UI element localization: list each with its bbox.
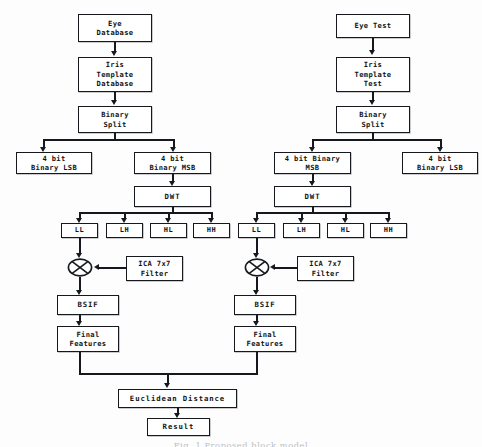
node-4bit-binary-msb-enroll: 4 bit Binary MSB <box>134 152 211 174</box>
arrowhead-merge-to-distance <box>164 383 170 388</box>
connector-split-right-test <box>440 139 442 147</box>
node-dwt-test: DWT <box>274 186 351 207</box>
node-eye-database: Eye Database <box>78 14 152 42</box>
node-subband-ll-test: LL <box>238 223 275 238</box>
arrowhead-ica-to-operator-test <box>270 264 275 270</box>
arrowhead-ica-to-operator-enroll <box>94 264 99 270</box>
connector-split-right-enroll <box>173 139 175 147</box>
connector-ll-to-operator-enroll <box>79 238 81 254</box>
arrowhead-template-to-split <box>111 100 117 105</box>
connector-dwt-bar-enroll <box>79 212 213 214</box>
node-4bit-binary-lsb-enroll: 4 bit Binary LSB <box>16 152 92 174</box>
arrowhead-eyedb-to-template <box>111 51 117 56</box>
connector-ica-to-operator-enroll <box>99 267 126 269</box>
node-iris-template-test: Iris Template Test <box>336 57 410 92</box>
node-binary-split-test: Binary Split <box>336 106 410 133</box>
node-result: Result <box>147 418 210 436</box>
connector-dwt-bar-test <box>256 212 390 214</box>
node-subband-hl-test: HL <box>327 223 364 238</box>
node-final-features-enroll: Final Features <box>57 326 119 352</box>
connector-features-down-enroll <box>79 352 81 374</box>
node-dwt-enroll: DWT <box>134 186 211 207</box>
connector-split-bar-enroll <box>43 139 174 141</box>
connector-msb-to-dwt-test <box>312 174 314 181</box>
connector-template-to-split-test <box>372 92 374 100</box>
flowchart-figure: Eye Database Iris Template Database Bina… <box>0 0 482 447</box>
node-bsif-test: BSIF <box>234 295 296 315</box>
connector-split-left-test <box>312 139 314 147</box>
figure-caption: Fig. 1 Proposed block model <box>0 440 482 447</box>
connector-msb-to-dwt-enroll <box>172 174 174 181</box>
node-final-features-test: Final Features <box>234 326 296 352</box>
connector-split-bar-test <box>312 139 442 141</box>
node-subband-hh-test: HH <box>370 223 407 238</box>
connector-ica-to-operator-test <box>275 267 297 269</box>
multiply-operator-enroll <box>67 258 93 277</box>
node-eye-test: Eye Test <box>336 14 410 38</box>
connector-eyedb-to-template <box>114 42 116 51</box>
arrowhead-template-to-split-test <box>369 100 375 105</box>
connector-split-left-enroll <box>43 139 45 147</box>
node-4bit-binary-lsb-test: 4 bit Binary LSB <box>402 152 478 174</box>
node-subband-ll-enroll: LL <box>61 223 98 238</box>
connector-template-to-split <box>114 92 116 100</box>
connector-operator-to-bsif-enroll <box>79 277 81 291</box>
connector-features-down-test <box>256 352 258 374</box>
connector-ll-to-operator-test <box>256 238 258 254</box>
node-subband-lh-test: LH <box>283 223 320 238</box>
node-subband-lh-enroll: LH <box>106 223 143 238</box>
multiply-operator-test <box>244 258 270 277</box>
node-subband-hl-enroll: HL <box>150 223 187 238</box>
node-subband-hh-enroll: HH <box>193 223 230 238</box>
node-ica-filter-test: ICA 7x7 Filter <box>297 256 354 281</box>
connector-eyetest-to-template <box>372 38 374 50</box>
node-ica-filter-enroll: ICA 7x7 Filter <box>126 256 183 281</box>
node-iris-template-database: Iris Template Database <box>78 57 152 92</box>
arrowhead-eyetest-to-template <box>369 50 375 55</box>
node-euclidean-distance: Euclidean Distance <box>118 389 237 408</box>
node-binary-split-enroll: Binary Split <box>78 106 152 133</box>
node-bsif-enroll: BSIF <box>57 295 119 315</box>
node-4bit-binary-msb-test: 4 bit Binary MSB <box>274 152 351 174</box>
connector-operator-to-bsif-test <box>256 277 258 291</box>
